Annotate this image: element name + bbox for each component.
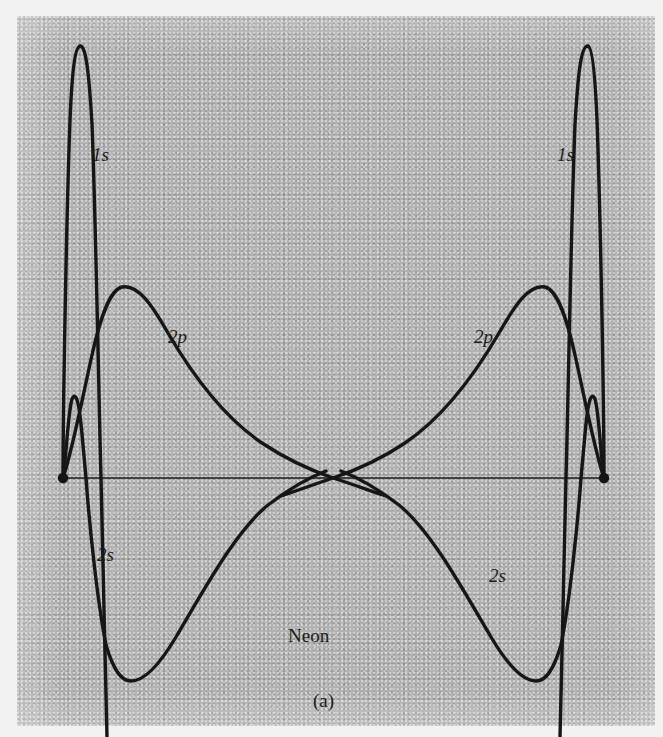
label-2p-right: 2p	[474, 327, 493, 346]
nucleus-marker-right	[599, 473, 609, 483]
label-1s-right: 1s	[557, 145, 574, 164]
label-2p-left: 2p	[168, 327, 187, 346]
orbital-plot	[0, 0, 663, 737]
figure-root: 1s 1s 2p 2p 2s 2s Neon (a)	[0, 0, 663, 737]
element-name-label: Neon	[288, 626, 329, 645]
label-2s-left: 2s	[97, 545, 114, 564]
label-1s-left: 1s	[92, 145, 109, 164]
nucleus-marker-left	[58, 473, 68, 483]
label-2s-right: 2s	[489, 566, 506, 585]
curve-2p-right	[281, 287, 604, 496]
panel-caption: (a)	[313, 691, 334, 710]
curve-2p-left	[63, 287, 386, 496]
